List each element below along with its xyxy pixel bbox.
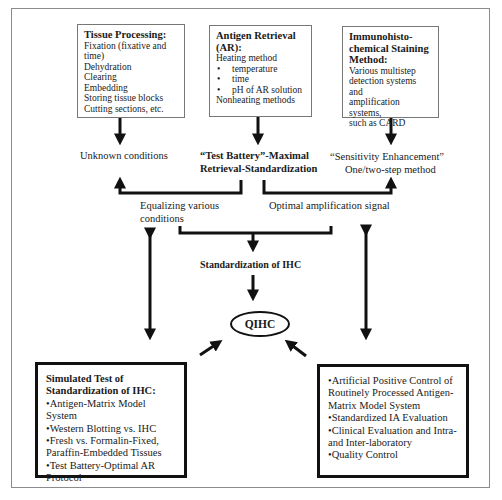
- bracket-equalizing: [120, 180, 241, 193]
- bracket-standardization: [180, 226, 331, 233]
- connector-arrows: [0, 0, 502, 500]
- arrow-diagonal-left: [200, 343, 218, 355]
- bracket-optimal: [264, 180, 391, 193]
- arrow-diagonal-right: [289, 343, 306, 356]
